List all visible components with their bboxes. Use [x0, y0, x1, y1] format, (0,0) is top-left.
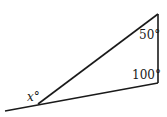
triangle-diagram: 50° 100° x° [0, 0, 167, 117]
bottom-right-angle-label: 100° [132, 68, 161, 82]
top-angle-label: 50° [139, 28, 160, 42]
exterior-angle-label: x° [27, 90, 40, 104]
